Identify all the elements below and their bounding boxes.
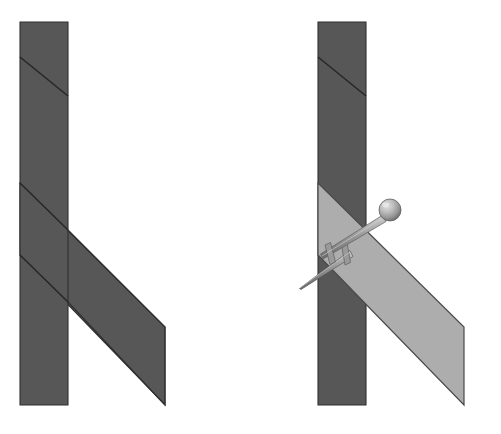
- left-figure-region[interactable]: [0, 0, 250, 434]
- right-figure-region[interactable]: [251, 0, 501, 434]
- illustration-stage: [0, 0, 501, 434]
